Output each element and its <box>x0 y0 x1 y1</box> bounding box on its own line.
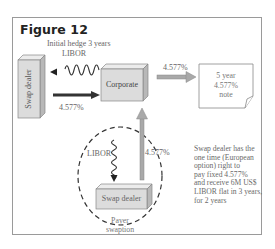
libor-wave-arrow-swaption <box>111 140 118 182</box>
note-rate-label: 4.577% <box>163 64 188 72</box>
swap-dealer-top-label: Swap dealer <box>25 69 33 108</box>
libor-label-swaption: LIBOR <box>87 150 111 158</box>
fixed-rate-label-top: 4.577% <box>59 104 84 112</box>
note-label: 5 year 4.577% note <box>199 71 253 100</box>
diagram-canvas <box>0 0 275 249</box>
arrow-corporate-to-note <box>157 72 196 83</box>
corporate-label: Corporate <box>101 81 143 89</box>
payer-swaption-circle <box>78 127 162 225</box>
swap-dealer-top-label-wrap: Swap dealer <box>18 60 40 118</box>
payer-swaption-label: Payer swaption <box>100 217 140 234</box>
swap-dealer-bottom-label: Swap dealer <box>96 195 147 203</box>
libor-label-top: LIBOR <box>62 50 86 58</box>
fixed-arrow-swaption-up <box>137 108 148 180</box>
libor-wave-arrow-top <box>50 65 99 76</box>
initial-hedge-caption: Initial hedge 3 years <box>47 40 110 48</box>
fixed-rate-label-swaption: 4.577% <box>145 149 170 157</box>
swaption-description: Swap dealer has the one time (European o… <box>194 145 266 205</box>
fixed-arrow-to-corporate <box>53 91 100 99</box>
